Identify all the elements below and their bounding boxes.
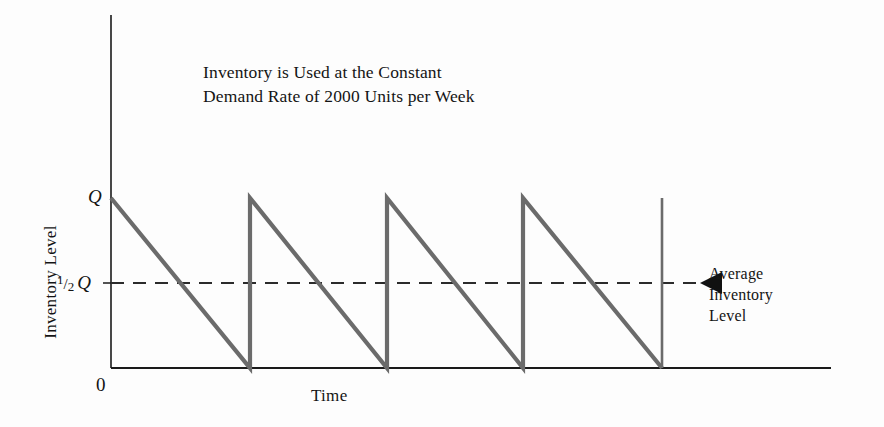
x-axis-title: Time [311, 386, 347, 406]
inventory-sawtooth-figure: Q 1/2Q 0 Time Inventory Level Inventory … [0, 0, 884, 427]
average-inventory-annotation-line3: Level [709, 307, 746, 324]
y-axis-title: Inventory Level [41, 202, 61, 362]
demand-rate-annotation: Inventory is Used at the ConstantDemand … [203, 61, 475, 109]
origin-label: 0 [96, 374, 106, 396]
y-axis-label-half-q: 1/2Q [57, 272, 91, 294]
average-inventory-annotation: AverageInventoryLevel [709, 263, 773, 326]
average-inventory-annotation-line2: Inventory [709, 286, 773, 303]
fraction-denominator: 2 [68, 279, 75, 294]
demand-rate-annotation-line2: Demand Rate of 2000 Units per Week [203, 86, 475, 106]
demand-rate-annotation-line1: Inventory is Used at the Constant [203, 62, 442, 82]
y-axis-label-half-q-symbol: Q [77, 272, 91, 293]
y-axis-label-q: Q [88, 186, 102, 208]
average-inventory-annotation-line1: Average [709, 265, 763, 282]
